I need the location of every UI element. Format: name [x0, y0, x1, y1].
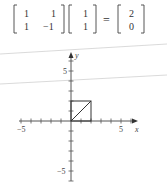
- matrix-cell-00: 1: [24, 8, 29, 19]
- vector-cell-0: 1: [83, 8, 88, 19]
- matrix-cell-11: −1: [43, 21, 54, 32]
- matrix-equation: 1 1 1 −1 1 1 = 2 0: [14, 5, 144, 33]
- x-axis-arrow-icon: [132, 119, 138, 124]
- guide-line-top: [0, 44, 167, 54]
- y-tick-label-neg5: −5: [57, 167, 66, 176]
- y-tick-label-5: 5: [63, 67, 67, 76]
- x-tick-label-neg5: −5: [17, 125, 26, 134]
- guide-line-bottom: [0, 75, 167, 84]
- x-tick-label-5: 5: [119, 125, 123, 134]
- vector-left-bracket: [69, 5, 72, 33]
- y-axis-label: y: [74, 51, 79, 60]
- vector-right-bracket: [93, 5, 96, 33]
- y-axis-arrow-icon: [69, 52, 74, 58]
- result-cell-1: 0: [129, 21, 134, 32]
- axes: [19, 56, 134, 181]
- matrix-cell-10: 1: [24, 21, 29, 32]
- result-right-bracket: [141, 5, 144, 33]
- diagonal-line: [71, 101, 91, 121]
- x-axis-label: x: [134, 125, 139, 134]
- figure: 1 1 1 −1 1 1 = 2 0 −5 5 5 −5 x y: [0, 0, 167, 184]
- equals-sign: =: [103, 13, 110, 27]
- result-left-bracket: [118, 5, 121, 33]
- unit-square-transformed: [71, 101, 91, 121]
- matrix-cell-01: 1: [51, 8, 56, 19]
- vector-cell-1: 1: [83, 21, 88, 32]
- result-cell-0: 2: [129, 8, 134, 19]
- matrix-left-bracket: [14, 5, 17, 33]
- matrix-right-bracket: [61, 5, 64, 33]
